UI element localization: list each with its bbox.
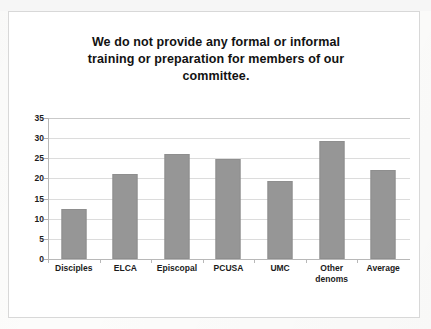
x-axis-labels: DisciplesELCAEpiscopalPCUSAUMCOtherdenom…	[48, 263, 409, 297]
bar-slot	[203, 118, 255, 259]
y-axis-tick-label: 35	[24, 113, 44, 123]
y-axis-tick-label: 20	[24, 173, 44, 183]
x-axis-label-line: ELCA	[100, 263, 152, 274]
y-axis-tick-label: 10	[24, 214, 44, 224]
bar-slot	[306, 118, 358, 259]
chart-title: We do not provide any formal or informal…	[31, 34, 401, 85]
y-axis-tick-label: 0	[24, 254, 44, 264]
y-axis-tick-label: 30	[24, 133, 44, 143]
bar-chart: 05101520253035 DisciplesELCAEpiscopalPCU…	[25, 113, 415, 303]
bar-slot	[254, 118, 306, 259]
slide-frame: We do not provide any formal or informal…	[8, 11, 420, 318]
bar[interactable]	[61, 209, 86, 259]
bar[interactable]	[268, 181, 293, 259]
bar[interactable]	[113, 174, 138, 259]
x-axis-label: Disciples	[48, 263, 100, 274]
x-axis-label-line: Episcopal	[151, 263, 203, 274]
bar-slot	[100, 118, 152, 259]
y-axis-tick-label: 25	[24, 153, 44, 163]
bar[interactable]	[216, 159, 241, 259]
page-top-edge	[0, 0, 431, 11]
bar-slot	[48, 118, 100, 259]
x-axis-label: Otherdenoms	[306, 263, 358, 285]
x-axis-label-line: Average	[357, 263, 409, 274]
bar[interactable]	[164, 154, 189, 259]
x-axis-label: ELCA	[100, 263, 152, 274]
x-axis-label-line: PCUSA	[203, 263, 255, 274]
bar[interactable]	[371, 170, 396, 259]
x-axis-label: Average	[357, 263, 409, 274]
x-axis-label: PCUSA	[203, 263, 255, 274]
chart-title-line-3: committee.	[31, 68, 401, 85]
x-axis-label-line: Other	[306, 263, 358, 274]
x-axis-label: UMC	[254, 263, 306, 274]
bar-slot	[151, 118, 203, 259]
y-axis-tick-label: 5	[24, 234, 44, 244]
x-axis-label-line: Disciples	[48, 263, 100, 274]
chart-title-line-1: We do not provide any formal or informal	[31, 34, 401, 51]
x-axis-label: Episcopal	[151, 263, 203, 274]
y-axis-tick-label: 15	[24, 194, 44, 204]
x-axis-label-line: denoms	[306, 274, 358, 285]
bar-slot	[357, 118, 409, 259]
bars-layer	[48, 118, 409, 259]
y-axis: 05101520253035	[25, 118, 44, 259]
x-axis-label-line: UMC	[254, 263, 306, 274]
bar[interactable]	[319, 141, 344, 259]
chart-title-line-2: training or preparation for members of o…	[31, 51, 401, 68]
